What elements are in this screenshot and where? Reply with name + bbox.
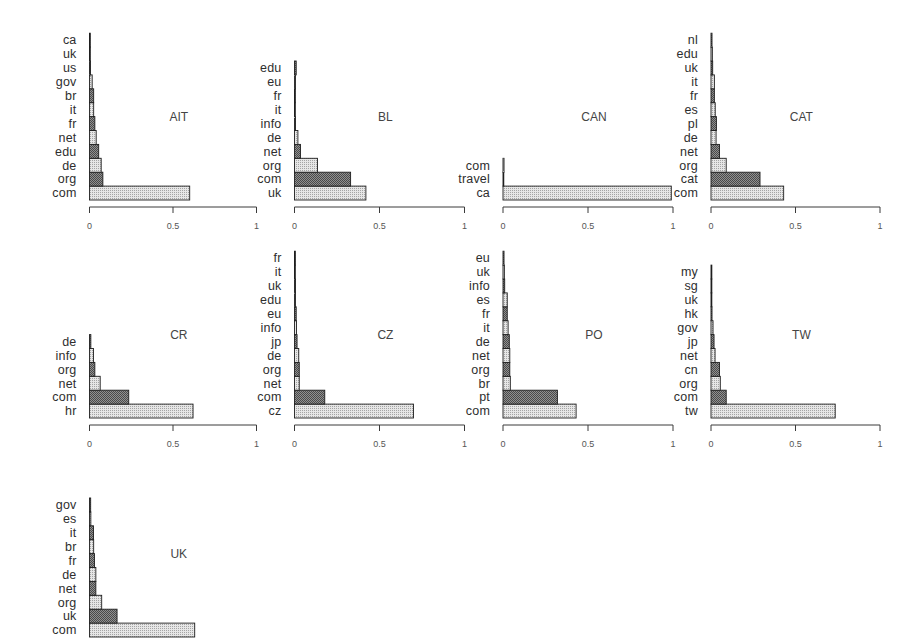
- bar-de: [295, 131, 298, 145]
- bar-fr: [503, 307, 507, 321]
- x-tick-label: 1: [877, 221, 882, 231]
- bar-com: [295, 172, 351, 186]
- x-tick-label: 0: [708, 221, 713, 231]
- category-label-org: org: [263, 159, 282, 173]
- chart-title: AIT: [169, 110, 188, 124]
- bar-com: [711, 186, 784, 200]
- category-labels: ukcomorgnetdeinfoitfreuedu: [257, 61, 282, 200]
- x-tick-label: 0.5: [167, 439, 180, 449]
- category-label-com: com: [257, 390, 281, 404]
- bar-group: [503, 251, 576, 418]
- bar-net: [503, 349, 510, 363]
- category-label-net: net: [59, 131, 77, 145]
- category-label-edu: edu: [55, 145, 76, 159]
- category-label-uk: uk: [63, 609, 77, 623]
- x-tick-label: 1: [670, 439, 675, 449]
- chart-panel-ait: comorgdeedunetfritbrgovusukca 00.51 AIT: [52, 33, 259, 231]
- bar-de: [711, 131, 716, 145]
- figure: comorgdeedunetfritbrgovusukca 00.51 AIT …: [0, 0, 923, 641]
- category-label-uk: uk: [684, 61, 698, 75]
- bar-my: [711, 265, 712, 279]
- x-tick-label: 0.5: [789, 439, 802, 449]
- x-tick-label: 1: [254, 439, 259, 449]
- bar-org: [295, 158, 318, 172]
- category-label-uk: uk: [476, 265, 490, 279]
- x-axis: 00.51: [87, 207, 259, 231]
- x-tick-label: 0.5: [582, 439, 595, 449]
- category-label-br: br: [478, 377, 490, 391]
- x-tick-label: 0: [292, 439, 297, 449]
- category-label-travel: travel: [458, 172, 490, 186]
- category-label-uk: uk: [63, 47, 77, 61]
- bar-net: [90, 376, 101, 390]
- category-label-cat: cat: [681, 172, 699, 186]
- bar-eu: [295, 75, 296, 89]
- bar-it: [90, 526, 94, 540]
- bar-edu: [90, 144, 99, 158]
- bar-de: [295, 349, 299, 363]
- category-label-gov: gov: [56, 498, 77, 512]
- x-tick-label: 1: [670, 221, 675, 231]
- category-label-sg: sg: [684, 279, 698, 293]
- bar-com: [90, 623, 195, 637]
- bar-cz: [295, 404, 414, 418]
- category-label-it: it: [275, 103, 282, 117]
- bar-uk: [711, 293, 712, 307]
- bar-org: [90, 362, 95, 376]
- chart-title: CR: [170, 328, 188, 342]
- x-tick-label: 0.5: [373, 221, 386, 231]
- bar-net: [711, 144, 719, 158]
- category-label-com: com: [52, 390, 76, 404]
- chart-title: CAN: [581, 110, 606, 124]
- category-label-tw: tw: [685, 404, 699, 418]
- bar-net: [90, 131, 97, 145]
- category-label-it: it: [70, 103, 77, 117]
- x-axis: 00.51: [708, 207, 882, 231]
- category-labels: comukorgnetdefrbritesgov: [52, 498, 77, 637]
- category-label-br: br: [65, 89, 77, 103]
- bar-br: [90, 540, 94, 554]
- bar-net: [295, 144, 301, 158]
- bar-edu: [295, 61, 297, 75]
- category-label-uk: uk: [268, 186, 282, 200]
- category-label-org: org: [58, 363, 77, 377]
- category-label-org: org: [679, 377, 698, 391]
- category-label-fr: fr: [690, 89, 698, 103]
- bar-tw: [711, 404, 835, 418]
- x-tick-label: 1: [877, 439, 882, 449]
- category-label-net: net: [680, 145, 698, 159]
- bar-de: [90, 568, 96, 582]
- category-label-info: info: [469, 279, 490, 293]
- category-labels: comorgdeedunetfritbrgovusukca: [52, 33, 77, 200]
- x-tick-label: 0: [87, 439, 92, 449]
- category-label-us: us: [63, 61, 77, 75]
- bar-uk: [295, 279, 296, 293]
- x-tick-label: 1: [462, 221, 467, 231]
- bar-pl: [711, 117, 716, 131]
- chart-panel-po: comptbrorgnetdeitfresinfoukeu 00.51 PO: [466, 251, 676, 449]
- chart-title: CZ: [377, 328, 393, 342]
- bar-hr: [90, 404, 194, 418]
- category-label-org: org: [679, 159, 698, 173]
- x-axis: 00.51: [292, 425, 467, 449]
- category-label-jp: jp: [687, 335, 698, 349]
- bar-org: [711, 376, 720, 390]
- bar-ca: [90, 33, 91, 47]
- x-tick-label: 0.5: [582, 221, 595, 231]
- category-label-info: info: [56, 349, 77, 363]
- category-label-es: es: [63, 512, 77, 526]
- bar-net: [295, 376, 300, 390]
- category-label-br: br: [65, 540, 77, 554]
- bar-org: [90, 172, 103, 186]
- category-label-net: net: [59, 582, 77, 596]
- bar-es: [503, 293, 507, 307]
- chart-title: BL: [378, 110, 393, 124]
- small-multiples-bar-charts: comorgdeedunetfritbrgovusukca 00.51 AIT …: [0, 0, 923, 641]
- category-label-pt: pt: [479, 390, 490, 404]
- category-label-fr: fr: [482, 307, 490, 321]
- category-label-net: net: [59, 377, 77, 391]
- category-label-com: com: [466, 404, 490, 418]
- bar-group: [90, 335, 194, 418]
- bar-group: [295, 251, 414, 418]
- category-label-info: info: [261, 117, 282, 131]
